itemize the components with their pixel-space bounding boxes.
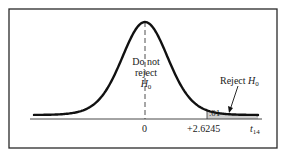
tick-label-zero: 0 bbox=[142, 124, 147, 134]
reject-h0-label: Reject H0 bbox=[220, 76, 259, 89]
h-subscript: 0 bbox=[148, 83, 152, 91]
do-not-reject-label: Do not reject H0 bbox=[116, 56, 176, 93]
h0-symbol: H0 bbox=[116, 78, 176, 93]
reject-arrow-line bbox=[230, 86, 238, 110]
reject-h-subscript: 0 bbox=[255, 80, 259, 88]
axis-sub: 14 bbox=[253, 128, 260, 136]
reject-text: Reject bbox=[220, 75, 248, 86]
do-not-reject-line2: reject bbox=[116, 67, 176, 78]
h-symbol: H bbox=[141, 78, 148, 89]
reject-arrow-head bbox=[228, 106, 233, 113]
do-not-reject-line1: Do not bbox=[116, 56, 176, 67]
alpha-label: .01 bbox=[209, 108, 220, 118]
tick-label-critical: +2.6245 bbox=[187, 124, 220, 134]
axis-variable-label: t14 bbox=[250, 124, 260, 137]
